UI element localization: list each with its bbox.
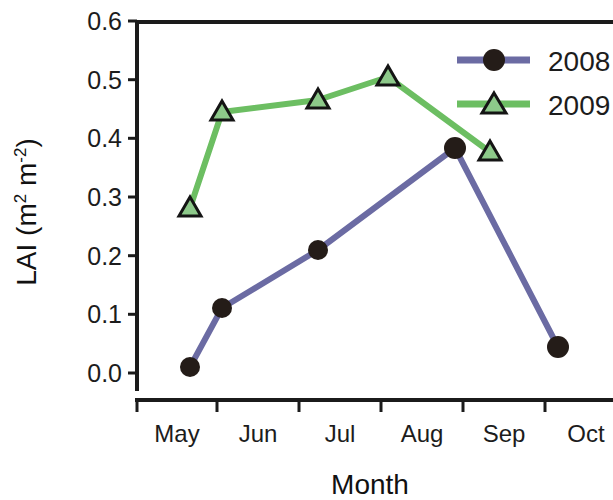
y-axis-title-sup2: -2 bbox=[11, 148, 30, 163]
series-line-2009 bbox=[190, 77, 490, 208]
data-point-2008-aug bbox=[444, 137, 466, 159]
legend-entry-2008[interactable]: 2008 bbox=[457, 46, 610, 77]
series-line-2008 bbox=[190, 148, 558, 367]
chart-figure: 0.6 0.5 0.4 0.3 0.2 0.1 0.0 May Jun Jul … bbox=[0, 0, 613, 500]
x-tick-label-oct: Oct bbox=[567, 420, 605, 447]
svg-text:LAI (m2 m-2): LAI (m2 m-2) bbox=[11, 138, 42, 286]
data-point-2008-jul bbox=[308, 240, 328, 260]
legend-label-2009: 2009 bbox=[548, 90, 610, 121]
x-axis-title: Month bbox=[331, 469, 409, 500]
y-tick-label: 0.1 bbox=[87, 300, 122, 328]
data-point-2008-oct bbox=[547, 336, 569, 358]
x-tick-label-aug: Aug bbox=[401, 420, 444, 447]
y-axis-title-prefix: LAI (m bbox=[11, 203, 42, 285]
y-axis-title-sup1: 2 bbox=[11, 194, 30, 203]
data-point-2009-aug bbox=[377, 66, 399, 85]
y-tick-label: 0.3 bbox=[87, 183, 122, 211]
y-axis-title: LAI (m2 m-2) bbox=[11, 138, 42, 286]
x-axis-tick-labels: May Jun Jul Aug Sep Oct bbox=[154, 420, 605, 447]
legend: 2008 2009 bbox=[457, 46, 610, 121]
x-tick-label-sep: Sep bbox=[483, 420, 526, 447]
y-tick-label: 0.6 bbox=[87, 7, 122, 35]
y-axis-title-suffix: ) bbox=[11, 138, 42, 147]
data-point-2008-may bbox=[180, 357, 200, 377]
legend-marker-2008 bbox=[483, 49, 505, 71]
x-tick-label-jul: Jul bbox=[325, 420, 356, 447]
y-tick-label: 0.2 bbox=[87, 242, 122, 270]
y-tick-label: 0.0 bbox=[87, 359, 122, 387]
y-axis-title-mid: m bbox=[11, 163, 42, 194]
legend-label-2008: 2008 bbox=[548, 46, 610, 77]
y-tick-label: 0.5 bbox=[87, 66, 122, 94]
legend-entry-2009[interactable]: 2009 bbox=[457, 90, 610, 121]
data-point-2008-jun bbox=[212, 298, 232, 318]
x-tick-label-jun: Jun bbox=[239, 420, 278, 447]
line-chart: 0.6 0.5 0.4 0.3 0.2 0.1 0.0 May Jun Jul … bbox=[0, 0, 613, 500]
data-point-2009-may bbox=[179, 197, 201, 216]
y-tick-label: 0.4 bbox=[87, 124, 122, 152]
y-axis-tick-labels: 0.6 0.5 0.4 0.3 0.2 0.1 0.0 bbox=[87, 7, 122, 387]
x-tick-label-may: May bbox=[154, 420, 199, 447]
